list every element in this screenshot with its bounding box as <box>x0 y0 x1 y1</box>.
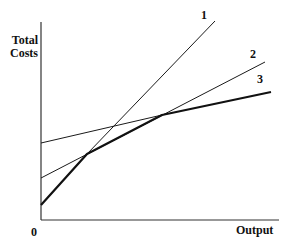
line-1-label: 1 <box>201 9 207 22</box>
cost-line-1 <box>87 21 215 154</box>
y-axis-label: Total Costs <box>6 34 38 60</box>
cost-chart <box>0 0 294 249</box>
line-3-label: 3 <box>257 73 263 86</box>
y-axis-label-line2: Costs <box>6 47 38 60</box>
cost-line-3 <box>41 92 271 205</box>
origin-label: 0 <box>31 226 37 239</box>
x-axis-label: Output <box>236 224 273 237</box>
line-2-label: 2 <box>250 48 256 61</box>
